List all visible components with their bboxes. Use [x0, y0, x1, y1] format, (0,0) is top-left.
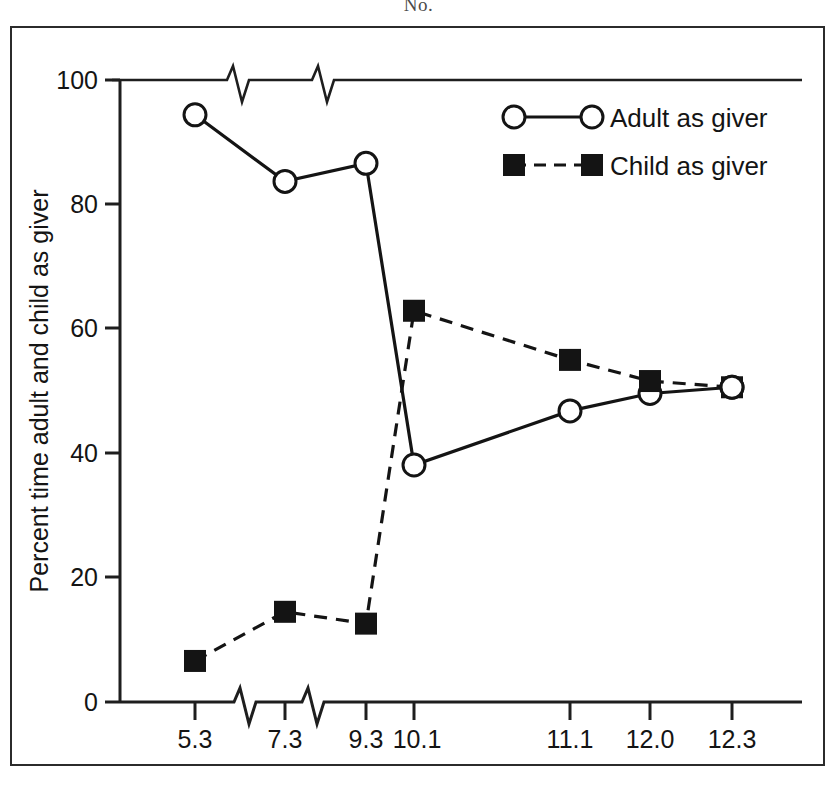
data-point-open-circle-overlap[interactable]	[721, 376, 743, 398]
data-point-open-circle[interactable]	[559, 400, 581, 422]
legend-item-adult[interactable]: Adult as giver	[503, 103, 768, 133]
filled-square-icon	[503, 154, 525, 176]
open-circle-icon	[581, 106, 603, 128]
top-axis-break-line	[112, 66, 802, 102]
x-axis-ticks	[195, 702, 732, 720]
data-point-filled-square[interactable]	[184, 650, 206, 672]
x-tick-label-9-3: 9.3	[349, 725, 384, 753]
y-axis: 100 80 60 40 20 0 Percent time adult and…	[25, 66, 120, 716]
x-tick-label-5-3: 5.3	[178, 725, 213, 753]
y-tick-label-20: 20	[70, 563, 98, 591]
series-layer	[184, 104, 743, 672]
figure-root: No. 100 80 60 40	[0, 0, 837, 807]
series-child-as-giver	[184, 300, 743, 672]
y-tick-label-100: 100	[56, 66, 98, 94]
x-axis: 5.3 7.3 9.3 10.1 11.1 12.0 12.3	[120, 688, 802, 753]
x-tick-label-12-0: 12.0	[626, 725, 675, 753]
x-tick-label-11-1: 11.1	[547, 725, 594, 753]
y-tick-label-0: 0	[84, 688, 98, 716]
data-point-filled-square[interactable]	[639, 370, 661, 392]
y-tick-label-40: 40	[70, 439, 98, 467]
legend-label-child: Child as giver	[610, 151, 768, 181]
data-point-filled-square[interactable]	[355, 613, 377, 635]
figure-caption: No.	[0, 0, 837, 16]
x-tick-label-12-3: 12.3	[708, 725, 757, 753]
chart-legend: Adult as giver Child as giver	[503, 103, 768, 181]
open-circle-icon	[503, 106, 525, 128]
data-point-open-circle[interactable]	[403, 454, 425, 476]
y-axis-title: Percent time adult and child as giver	[25, 190, 53, 593]
data-point-filled-square[interactable]	[274, 601, 296, 623]
y-tick-label-60: 60	[70, 314, 98, 342]
data-point-filled-square[interactable]	[403, 300, 425, 322]
legend-label-adult: Adult as giver	[610, 103, 768, 133]
chart-frame: 100 80 60 40 20 0 Percent time adult and…	[10, 26, 825, 766]
x-tick-label-7-3: 7.3	[268, 725, 303, 753]
y-tick-label-80: 80	[70, 190, 98, 218]
legend-item-child[interactable]: Child as giver	[503, 151, 768, 181]
x-tick-label-10-1: 10.1	[393, 725, 442, 753]
data-point-filled-square[interactable]	[559, 349, 581, 371]
line-chart: 100 80 60 40 20 0 Percent time adult and…	[12, 28, 823, 764]
filled-square-icon	[581, 154, 603, 176]
data-point-open-circle[interactable]	[184, 104, 206, 126]
data-point-open-circle[interactable]	[274, 170, 296, 192]
data-point-open-circle[interactable]	[355, 152, 377, 174]
y-axis-ticks	[105, 80, 120, 702]
